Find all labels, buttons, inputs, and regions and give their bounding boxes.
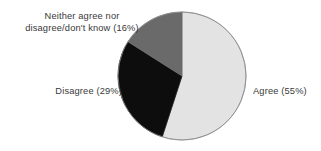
pie-label-neither: Neither agree nor disagree/don't know (1… bbox=[18, 10, 146, 35]
pie-chart-figure: Neither agree nor disagree/don't know (1… bbox=[0, 0, 321, 151]
pie-label-agree: Agree (55%) bbox=[253, 85, 321, 97]
pie-label-disagree: Disagree (29%) bbox=[30, 85, 122, 97]
